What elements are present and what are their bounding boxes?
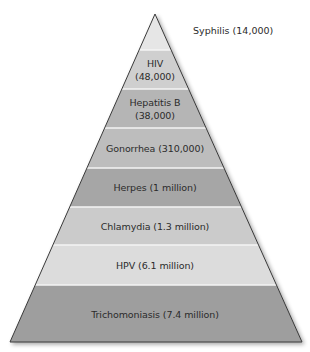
label-hiv-value: (48,000) <box>135 70 175 83</box>
label-herpes: Herpes (1 million) <box>113 181 196 194</box>
label-trichomoniasis: Trichomoniasis (7.4 million) <box>91 308 219 321</box>
label-hiv-name: HIV <box>135 57 175 70</box>
label-hepatitis-b: Hepatitis B (38,000) <box>130 96 181 122</box>
label-hpv: HPV (6.1 million) <box>116 259 194 272</box>
label-hepatitis-b-value: (38,000) <box>130 109 181 122</box>
label-hepatitis-b-name: Hepatitis B <box>130 96 181 109</box>
label-chlamydia: Chlamydia (1.3 million) <box>101 220 209 233</box>
pyramid-diagram <box>0 0 310 352</box>
label-gonorrhea: Gonorrhea (310,000) <box>106 142 204 155</box>
label-hiv: HIV (48,000) <box>135 57 175 83</box>
label-syphilis: Syphilis (14,000) <box>193 25 273 36</box>
